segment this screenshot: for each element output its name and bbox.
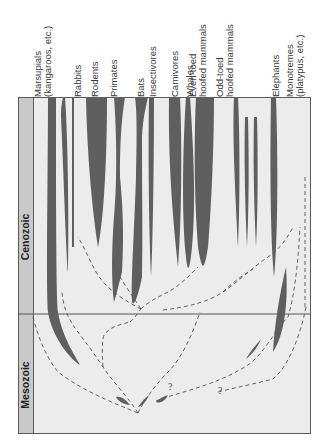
label-carnivores: Carnivores	[170, 51, 180, 97]
uncertain-mark-2: ?	[218, 385, 223, 396]
label-insectivores: Insectivores	[148, 46, 158, 97]
label-rodents: Rodents	[90, 62, 100, 97]
era-label-cenozoic: Cenozoic	[19, 214, 31, 261]
group-labels: Marsupials(kangaroos, etc.) Rabbits Rode…	[0, 0, 326, 97]
label-marsupials: Marsupials(kangaroos, etc.)	[33, 26, 53, 97]
label-odd-toed: Odd-toedhoofed mammals	[215, 24, 235, 97]
phylogeny-diagram: Cenozoic Mesozoic	[18, 97, 311, 434]
diagram-background	[19, 98, 311, 434]
label-rabbits: Rabbits	[73, 65, 83, 97]
label-even-toed: Even-toedhoofed mammals	[188, 24, 208, 97]
label-elephants: Elephants	[271, 55, 281, 97]
label-bats: Bats	[136, 78, 146, 97]
label-primates: Primates	[109, 60, 119, 97]
uncertain-mark-1: ?	[168, 381, 173, 392]
era-label-mesozoic: Mesozoic	[19, 361, 31, 408]
label-monotremes: Monotremes(platypus, etc.)	[285, 35, 305, 97]
